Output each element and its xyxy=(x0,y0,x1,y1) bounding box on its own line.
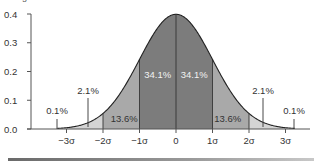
label-minus1-to-0: 34.1% xyxy=(144,69,171,80)
label-plus1-to-plus2: 13.6% xyxy=(214,113,241,124)
x-tick-label: −3σ xyxy=(58,135,75,146)
x-tick-label: 1σ xyxy=(207,135,218,146)
label-minus2-to-minus1: 13.6% xyxy=(111,113,138,124)
x-tick-label: −2σ xyxy=(95,135,112,146)
y-tick-label: 0.3 xyxy=(4,37,17,48)
x-tick-label: 0 xyxy=(173,135,178,146)
x-tick-label: 2σ xyxy=(243,135,254,146)
normal-distribution-chart: 0.00.10.20.30.4−3σ−2σ−1σ01σ2σ3σ 34.1%34.… xyxy=(0,0,322,161)
x-tick-label: 3σ xyxy=(280,135,291,146)
label-plus2-to-plus3: 2.1% xyxy=(252,85,274,96)
y-tick-label: 0.0 xyxy=(4,124,17,135)
y-tick-label: 0.4 xyxy=(4,9,17,20)
y-tick-label: 0.2 xyxy=(4,66,17,77)
label-minus3-to-minus2: 2.1% xyxy=(77,85,99,96)
label-0-to-plus1: 34.1% xyxy=(181,69,208,80)
bottom-divider-rule xyxy=(8,158,314,161)
x-tick-label: −1σ xyxy=(131,135,148,146)
y-tick-label: 0.1 xyxy=(4,95,17,106)
label-right-tail: 0.1% xyxy=(283,105,305,116)
label-left-tail: 0.1% xyxy=(46,105,68,116)
